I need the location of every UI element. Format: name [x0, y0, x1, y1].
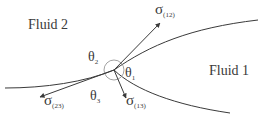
theta-1-symbol: θ	[125, 65, 132, 80]
sigma-23-symbol: σ	[44, 92, 52, 108]
interface-left-line	[5, 70, 114, 88]
sigma-23-subscript: (23)	[52, 102, 64, 110]
sigma-12-symbol: σ	[155, 1, 163, 17]
theta-2-symbol: θ	[88, 49, 95, 64]
theta-3-subscript: 3	[97, 97, 101, 105]
sigma-12-subscript: (12)	[163, 11, 175, 19]
sigma-12-label: σ(12)	[155, 2, 175, 19]
sigma-12-arrow	[114, 23, 160, 70]
theta-3-label: θ3	[90, 89, 100, 105]
fluid-1-label: Fluid 1	[209, 64, 249, 78]
theta-2-label: θ2	[88, 50, 98, 66]
sigma-13-symbol: σ	[126, 92, 134, 108]
theta-3-symbol: θ	[90, 88, 97, 103]
sigma-13-label: σ(13)	[126, 93, 146, 110]
theta-2-subscript: 2	[95, 58, 99, 66]
fluid-2-label: Fluid 2	[28, 18, 68, 32]
theta-1-label: θ1	[125, 66, 135, 82]
sigma-13-subscript: (13)	[134, 102, 146, 110]
sigma-23-label: σ(23)	[44, 93, 64, 110]
theta-1-subscript: 1	[132, 74, 136, 82]
